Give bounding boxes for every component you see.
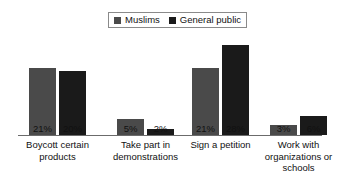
category-label-line: schools xyxy=(255,162,338,174)
x-axis-baseline xyxy=(18,135,322,136)
plot-area: 21%20%5%2%21%28%3%6% Boycott certainprod… xyxy=(0,0,338,178)
bar-chart: Muslims General public 21%20%5%2%21%28%3… xyxy=(0,0,338,178)
category-label-line: organizations or xyxy=(255,151,338,163)
category-label-line: Boycott certain xyxy=(14,139,102,151)
bar-value-label: 2% xyxy=(154,123,168,134)
bar-value-label: 3% xyxy=(277,123,291,134)
bar-value-label: 28% xyxy=(226,123,245,134)
category-label: Sign a petition xyxy=(177,139,265,151)
category-label: Work withorganizations orschools xyxy=(255,139,338,174)
category-label-line: demonstrations xyxy=(102,151,190,163)
bar-value-label: 21% xyxy=(33,123,52,134)
bar-value-label: 21% xyxy=(196,123,215,134)
bar-value-label: 20% xyxy=(63,123,82,134)
category-label-line: Sign a petition xyxy=(177,139,265,151)
category-label-line: products xyxy=(14,151,102,163)
category-label: Boycott certainproducts xyxy=(14,139,102,162)
bar-rect xyxy=(222,45,249,135)
category-label-line: Work with xyxy=(255,139,338,151)
bar-value-label: 5% xyxy=(124,123,138,134)
bar-value-label: 6% xyxy=(307,123,321,134)
